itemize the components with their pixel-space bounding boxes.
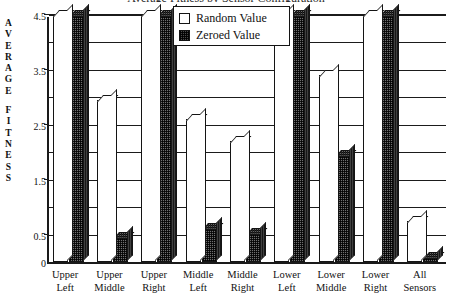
bar-random-value — [274, 15, 289, 262]
x-axis-category-label: AllSensors — [398, 268, 442, 294]
x-axis-category-line2: Left — [43, 281, 87, 294]
x-axis-category-label: UpperLeft — [43, 268, 87, 294]
bar-random-value — [141, 15, 156, 262]
legend-item-random: Random Value — [179, 10, 284, 27]
legend-label-random: Random Value — [196, 12, 267, 25]
y-axis-tick-label: 0 — [18, 259, 46, 269]
bar-group — [141, 15, 172, 262]
x-axis-category-label: LowerMiddle — [309, 268, 353, 294]
y-axis-tick-label: 4.5 — [18, 12, 46, 22]
bar-random-value — [186, 119, 201, 262]
bar-group — [274, 15, 305, 262]
x-axis-category-line1: Lower — [362, 269, 389, 280]
x-axis-category-line2: Left — [265, 281, 309, 294]
x-axis-category-label: MiddleLeft — [176, 268, 220, 294]
x-axis-category-line1: Upper — [96, 269, 122, 280]
bar-group — [319, 75, 350, 262]
bar-group — [97, 100, 128, 262]
bar-random-value — [319, 75, 334, 262]
y-axis-tick-label: 2.5 — [18, 122, 46, 132]
x-axis-category-line1: Middle — [227, 269, 257, 280]
x-axis-category-label: UpperMiddle — [87, 268, 131, 294]
x-axis-category-label: LowerRight — [353, 268, 397, 294]
bar-group — [186, 119, 217, 262]
legend-label-zeroed: Zeroed Value — [196, 29, 260, 42]
y-axis-tick-label: 0.5 — [18, 232, 46, 242]
x-axis-category-line2: Right — [132, 281, 176, 294]
legend-swatch-random-icon — [179, 13, 190, 24]
x-axis-category-line1: All — [413, 269, 426, 280]
y-axis-tick-mark — [44, 69, 49, 70]
x-axis-category-line2: Sensors — [398, 281, 442, 294]
y-axis-tick-mark — [44, 14, 49, 15]
bar-zeroed-value — [423, 257, 438, 262]
y-axis-tick-mark — [44, 234, 49, 235]
plot-area — [47, 17, 446, 264]
bar-random-value — [97, 100, 112, 262]
y-axis-tick-labels: 00.51.52.53.54.5 — [0, 0, 46, 307]
y-axis-tick-mark — [44, 124, 49, 125]
x-axis-category-label: LowerLeft — [265, 268, 309, 294]
bar-group — [407, 221, 438, 262]
bar-group — [230, 141, 261, 262]
x-axis-category-label: MiddleRight — [220, 268, 264, 294]
y-axis-tick-label: 3.5 — [18, 67, 46, 77]
bar-random-value — [53, 15, 68, 262]
x-axis-tick-labels: UpperLeftUpperMiddleUpperRightMiddleLeft… — [47, 268, 446, 307]
x-axis-category-line1: Lower — [273, 269, 300, 280]
x-axis-category-label: UpperRight — [132, 268, 176, 294]
bar-random-value — [363, 15, 378, 262]
y-axis-tick-mark — [44, 179, 49, 180]
x-axis-category-line2: Middle — [87, 281, 131, 294]
x-axis-category-line1: Upper — [52, 269, 78, 280]
bar-random-value — [407, 221, 422, 262]
x-axis-category-line1: Middle — [183, 269, 213, 280]
x-axis-category-line2: Middle — [309, 281, 353, 294]
x-axis-category-line2: Left — [176, 281, 220, 294]
plot-inner — [49, 17, 446, 262]
y-axis-tick-label: 1.5 — [18, 177, 46, 187]
x-axis-category-line2: Right — [220, 281, 264, 294]
legend-swatch-zeroed-icon — [179, 30, 190, 41]
x-axis-category-line2: Right — [353, 281, 397, 294]
x-axis-category-line1: Lower — [317, 269, 344, 280]
bar-random-value — [230, 141, 245, 262]
legend-item-zeroed: Zeroed Value — [179, 27, 284, 44]
chart-legend: Random Value Zeroed Value — [173, 6, 290, 46]
bar-group — [53, 15, 84, 262]
bar-group — [363, 15, 394, 262]
x-axis-category-line1: Upper — [141, 269, 167, 280]
chart-title: Average Fitness by Sensor Configuration — [0, 0, 452, 2]
bar-chart: Average Fitness by Sensor Configuration … — [0, 0, 452, 307]
